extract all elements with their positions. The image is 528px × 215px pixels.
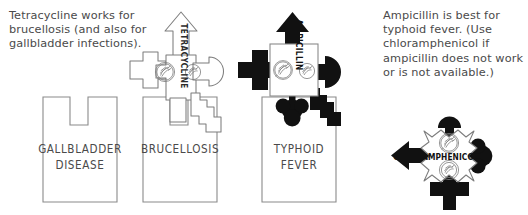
disease-box-gallbladder: GALLBLADDER DISEASE [38, 97, 122, 202]
brucellosis-label-line1: BRUCELLOSIS [141, 142, 219, 156]
tetracycline-label: TETRACYCLINE [179, 23, 189, 88]
typhoid-label-line2: FEVER [281, 158, 318, 172]
gallbladder-label-line1: GALLBLADDER [38, 142, 122, 156]
typhoid-label-line1: TYPHOID [273, 142, 324, 156]
gallbladder-label-line2: DISEASE [56, 158, 105, 172]
ampicillin-label: AMPICILLIN [294, 19, 304, 70]
chloramphenicol-label: CHLORAMPHENICOL [393, 152, 479, 162]
drug-key-chloramphenicol: CHLORAMPHENICOL [391, 117, 492, 211]
tetracycline-right-bulb [193, 57, 224, 86]
tetracycline-bottom-tab [170, 98, 186, 122]
